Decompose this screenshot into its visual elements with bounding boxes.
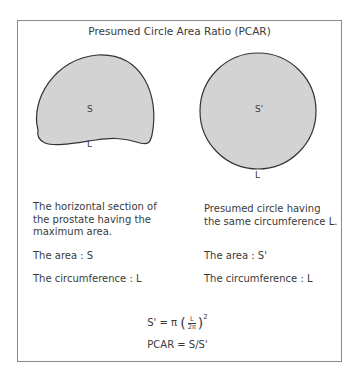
left-circumference-text: The circumference : L <box>33 273 142 286</box>
fraction-denominator: 2π <box>188 324 196 331</box>
perimeter-label-l-right: L <box>255 170 260 180</box>
area-label-s: S <box>87 104 93 114</box>
open-paren: ( <box>180 315 185 331</box>
perimeter-label-l-left: L <box>87 139 92 149</box>
pcar-formula: PCAR = S/S' <box>0 339 355 350</box>
fraction: L2π <box>188 316 196 331</box>
formula-lhs: S' = π <box>147 317 177 328</box>
right-description-line-1: Presumed circle having <box>204 203 337 216</box>
left-description-line-3: maximum area. <box>33 226 157 239</box>
left-description-line-1: The horizontal section of <box>33 201 157 214</box>
right-area-text: The area : S' <box>204 250 267 263</box>
right-description-line-2: the same circumference L. <box>204 216 337 229</box>
exponent: 2 <box>203 313 207 321</box>
left-area-text: The area : S <box>33 250 93 263</box>
right-circumference-text: The circumference : L <box>204 273 313 286</box>
right-description: Presumed circle having the same circumfe… <box>204 203 337 228</box>
prostate-section-shape <box>37 55 154 145</box>
area-label-s-prime: S' <box>255 104 263 114</box>
left-description: The horizontal section of the prostate h… <box>33 201 157 239</box>
left-description-line-2: the prostate having the <box>33 214 157 227</box>
s-prime-formula: S' = π (L2π)2 <box>0 313 355 331</box>
